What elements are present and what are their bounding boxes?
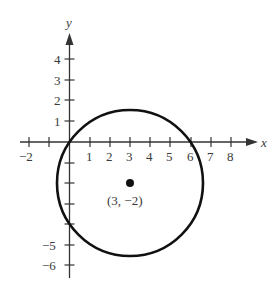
x-axis-label: x [260, 135, 267, 150]
center-point [126, 179, 134, 187]
center-point-label: (3, −2) [107, 193, 143, 208]
y-axis-label: y [64, 15, 72, 30]
y-axis-arrow-icon [66, 33, 74, 45]
y-tick-label: 3 [54, 73, 61, 88]
x-tick-label: 2 [106, 149, 113, 164]
y-tick-label: −6 [42, 258, 56, 273]
y-tick-label: −5 [42, 238, 56, 253]
x-tick-label: 7 [207, 149, 214, 164]
coordinate-plane: x y −2 1 2 3 4 5 6 7 8 4 3 2 1 −5 −6 (3,… [0, 0, 280, 289]
x-tick-label: 3 [126, 149, 133, 164]
x-tick-label: 8 [227, 149, 234, 164]
x-tick-label: 4 [146, 149, 153, 164]
x-tick-label: 6 [187, 149, 194, 164]
x-tick-label: −2 [19, 149, 33, 164]
y-tick-label: 1 [54, 114, 61, 129]
x-tick-label: 1 [86, 149, 93, 164]
x-tick-label: 5 [166, 149, 173, 164]
y-tick-label: 4 [54, 52, 61, 67]
x-axis-arrow-icon [246, 138, 258, 146]
y-tick-label: 2 [54, 93, 61, 108]
